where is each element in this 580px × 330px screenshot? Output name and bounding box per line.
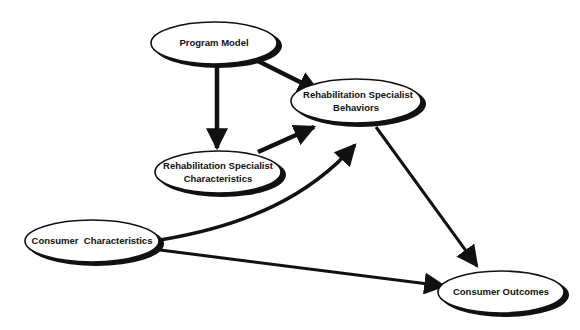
node-rs-behaviors: Rehabilitation Specialist Behaviors xyxy=(291,79,426,127)
node-rs-characteristics: Rehabilitation Specialist Characteristic… xyxy=(155,151,286,197)
node-consumer-outcomes: Consumer Outcomes xyxy=(438,271,569,317)
edge-rs-behaviors-to-consumer-outcomes xyxy=(376,127,477,266)
node-label: Rehabilitation Specialist xyxy=(303,89,414,100)
node-program-model: Program Model xyxy=(151,22,282,68)
edge-rs-characteristics-to-rs-behaviors xyxy=(258,127,314,152)
node-label: Rehabilitation Specialist xyxy=(163,160,274,171)
node-label: Consumer Outcomes xyxy=(453,286,549,297)
edge-consumer-characteristics-to-consumer-outcomes xyxy=(160,250,444,286)
node-label: Characteristics xyxy=(184,173,253,184)
node-label: Program Model xyxy=(179,37,248,48)
path-diagram: Program Model Rehabilitation Specialist … xyxy=(0,0,580,330)
node-consumer-characteristics: Consumer Characteristics xyxy=(25,220,164,266)
node-label: Consumer Characteristics xyxy=(32,235,153,246)
node-label: Behaviors xyxy=(333,102,379,113)
